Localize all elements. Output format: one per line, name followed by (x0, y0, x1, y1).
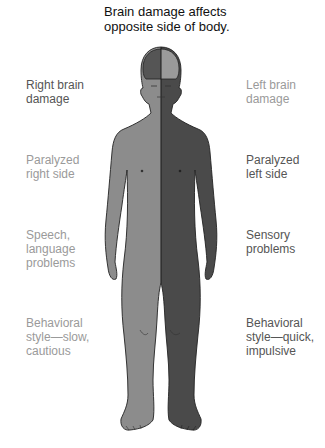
human-body-figure (0, 0, 325, 448)
